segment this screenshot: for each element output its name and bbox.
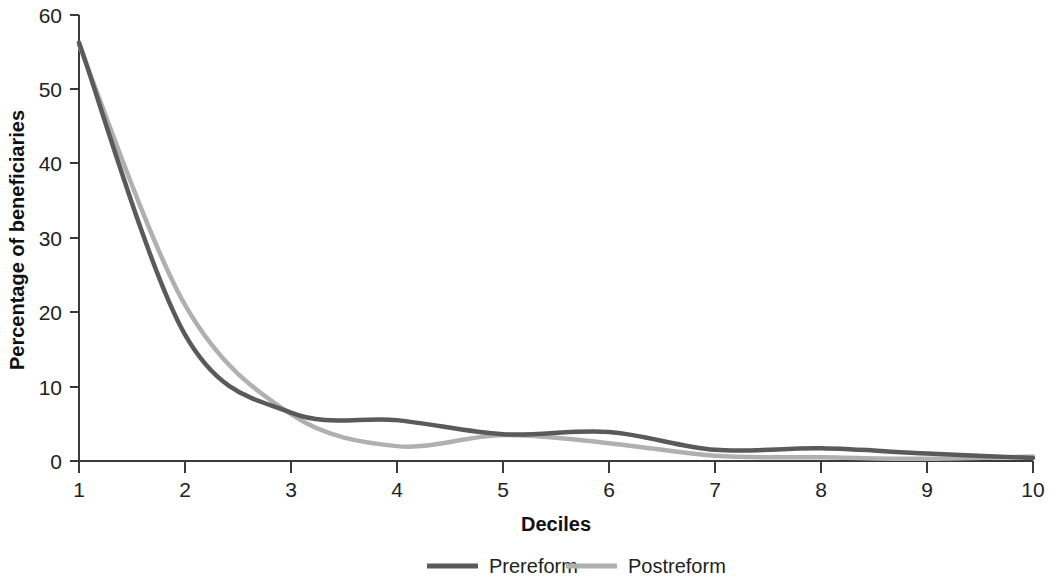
x-tick-label: 4 <box>391 478 403 501</box>
x-tick-label: 9 <box>921 478 933 501</box>
y-tick-label: 0 <box>50 450 62 473</box>
y-tick-label: 20 <box>39 301 62 324</box>
series-group <box>79 43 1033 459</box>
x-tick-label: 3 <box>285 478 297 501</box>
x-tick-label: 10 <box>1021 478 1044 501</box>
y-tick-label: 30 <box>39 227 62 250</box>
y-tick-label: 10 <box>39 376 62 399</box>
chart-container: Percentage of beneficiaries 60 50 40 30 … <box>0 0 1059 579</box>
x-tick-label: 2 <box>179 478 191 501</box>
x-tick-label: 7 <box>709 478 721 501</box>
legend-label-postreform: Postreform <box>628 555 726 577</box>
y-axis-title: Percentage of beneficiaries <box>6 110 28 370</box>
y-tick-marks <box>70 15 79 461</box>
x-tick-label: 8 <box>815 478 827 501</box>
x-tick-label: 6 <box>603 478 615 501</box>
y-tick-labels: 60 50 40 30 20 10 0 <box>39 4 62 473</box>
series-line-prereform <box>79 43 1033 459</box>
legend-label-prereform: Prereform <box>489 555 578 577</box>
series-line-postreform <box>79 45 1033 459</box>
x-axis-title: Deciles <box>521 513 591 535</box>
x-tick-label: 5 <box>497 478 509 501</box>
chart-legend: Prereform Postreform <box>427 555 726 577</box>
y-tick-label: 60 <box>39 4 62 27</box>
y-tick-label: 40 <box>39 152 62 175</box>
x-tick-labels: 1 2 3 4 5 6 7 8 9 10 <box>73 478 1045 501</box>
line-chart: Percentage of beneficiaries 60 50 40 30 … <box>0 0 1059 579</box>
x-tick-marks <box>79 461 1033 473</box>
y-tick-label: 50 <box>39 78 62 101</box>
x-tick-label: 1 <box>73 478 85 501</box>
